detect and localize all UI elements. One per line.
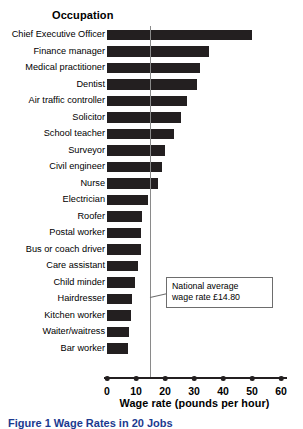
bar-category-label: Nurse [0, 178, 105, 189]
bar-category-label: Roofer [0, 211, 105, 222]
bar [107, 96, 187, 107]
bar-category-label: Surveyor [0, 145, 105, 156]
bar-row: Civil engineer [0, 160, 303, 177]
x-axis-tick-label: 20 [159, 385, 171, 397]
bar-category-label: Bus or coach driver [0, 244, 105, 255]
bar-row: Solicitor [0, 111, 303, 128]
bar [107, 327, 129, 338]
bar-category-label: Finance manager [0, 46, 105, 57]
bar-category-label: Bar worker [0, 343, 105, 354]
bar-row: Finance manager [0, 45, 303, 62]
bar [107, 162, 162, 173]
bar-category-label: Solicitor [0, 112, 105, 123]
bar-row: Electrician [0, 193, 303, 210]
bar-category-label: Hairdresser [0, 293, 105, 304]
bar-row: Dentist [0, 78, 303, 95]
x-axis-tick-dot [221, 376, 226, 381]
x-axis-tick-label: 60 [275, 385, 287, 397]
annotation-line-1: National average [172, 281, 268, 292]
national-average-reference-line [150, 26, 151, 377]
x-axis-tick-dot [279, 376, 284, 381]
x-axis: 0102030405060 [0, 377, 303, 379]
bar [107, 244, 141, 255]
x-axis-tick-dot [250, 376, 255, 381]
x-axis-tick-label: 30 [188, 385, 200, 397]
bar [107, 310, 131, 321]
bar-category-label: Medical practitioner [0, 62, 105, 73]
bar [107, 261, 138, 272]
bar-row: Chief Executive Officer [0, 28, 303, 45]
x-axis-tick-label: 40 [217, 385, 229, 397]
bar-category-label: Air traffic controller [0, 95, 105, 106]
bar-category-label: Dentist [0, 79, 105, 90]
x-axis-tick-dot [134, 376, 139, 381]
bar-row: Postal worker [0, 226, 303, 243]
x-axis-tick-label: 50 [246, 385, 258, 397]
national-average-annotation: National average wage rate £14.80 [166, 277, 273, 308]
x-axis-title: Wage rate (pounds per hour) [0, 397, 303, 409]
x-axis-tick-dot [105, 376, 110, 381]
bar-row: School teacher [0, 127, 303, 144]
bar-row: Air traffic controller [0, 94, 303, 111]
bar-row: Surveyor [0, 144, 303, 161]
bar-category-label: Chief Executive Officer [0, 29, 105, 40]
bar-category-label: Electrician [0, 194, 105, 205]
bar [107, 228, 141, 239]
bar [107, 112, 181, 123]
bar-row: Medical practitioner [0, 61, 303, 78]
bar [107, 211, 142, 222]
x-axis-tick-label: 10 [130, 385, 142, 397]
bar-category-label: Postal worker [0, 227, 105, 238]
bar-category-label: School teacher [0, 128, 105, 139]
bar [107, 145, 165, 156]
bar-row: Roofer [0, 210, 303, 227]
bar [107, 129, 174, 140]
bar-rows-container: Chief Executive OfficerFinance managerMe… [0, 28, 303, 358]
figure-caption: Figure 1 Wage Rates in 20 Jobs [8, 417, 173, 429]
bar [107, 30, 252, 41]
bar-category-label: Civil engineer [0, 161, 105, 172]
bar [107, 294, 132, 305]
bar-row: Kitchen worker [0, 309, 303, 326]
x-axis-tick-dot [192, 376, 197, 381]
bar [107, 79, 197, 90]
bar-row: Nurse [0, 177, 303, 194]
bar [107, 63, 200, 74]
x-axis-tick-label: 0 [104, 385, 110, 397]
bar [107, 343, 128, 354]
bar [107, 46, 209, 57]
annotation-line-2: wage rate £14.80 [172, 292, 268, 303]
bar-row: Bus or coach driver [0, 243, 303, 260]
bar-category-label: Care assistant [0, 260, 105, 271]
bar-category-label: Waiter/waitress [0, 326, 105, 337]
bar-row: Bar worker [0, 342, 303, 359]
bar-row: Waiter/waitress [0, 325, 303, 342]
bar-category-label: Child minder [0, 277, 105, 288]
bar [107, 195, 148, 206]
bar [107, 277, 135, 288]
bar-row: Care assistant [0, 259, 303, 276]
bar-category-label: Kitchen worker [0, 310, 105, 321]
x-axis-tick-dot [163, 376, 168, 381]
occupation-column-header: Occupation [52, 9, 114, 21]
